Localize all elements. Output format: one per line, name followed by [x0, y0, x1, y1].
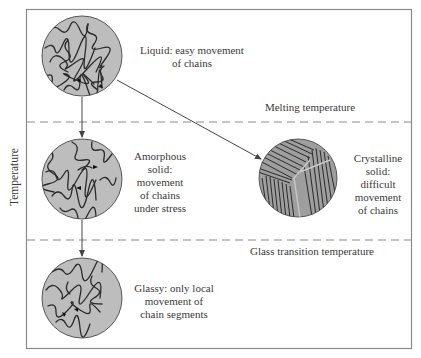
amorphous-description: Amorphous solid: movement of chains unde…	[130, 150, 190, 215]
glass-transition-label: Glass transition temperature	[226, 245, 398, 258]
amorphous-chain-circle	[41, 139, 122, 223]
amorphous-line-4: of chains	[130, 189, 190, 202]
liquid-description: Liquid: easy movement of chains	[136, 44, 248, 70]
crystalline-lamellae-circle	[258, 136, 337, 218]
melting-temperature-label: Melting temperature	[240, 101, 380, 114]
amorphous-line-5: under stress	[130, 202, 190, 215]
glassy-line-1: Glassy: only local	[130, 282, 218, 295]
glassy-description: Glassy: only local movement of chain seg…	[130, 282, 218, 321]
arrow-liquid-to-crystalline	[117, 80, 261, 159]
polymer-states-diagram: Temperature Liquid: easy movement of cha…	[0, 0, 421, 358]
crystalline-line-1: Crystalline	[348, 152, 408, 165]
amorphous-line-2: solid:	[130, 163, 190, 176]
crystalline-line-5: of chains	[348, 204, 408, 217]
crystalline-line-2: solid:	[348, 165, 408, 178]
y-axis-label: Temperature	[8, 139, 20, 215]
glassy-line-2: movement of	[130, 295, 218, 308]
crystalline-description: Crystalline solid: difficult movement of…	[348, 152, 408, 217]
amorphous-line-1: Amorphous	[130, 150, 190, 163]
glassy-chain-circle	[42, 258, 122, 338]
crystalline-line-4: movement	[348, 191, 408, 204]
amorphous-line-3: movement	[130, 176, 190, 189]
liquid-line-2: of chains	[136, 57, 248, 70]
crystalline-line-3: difficult	[348, 178, 408, 191]
glassy-line-3: chain segments	[130, 308, 218, 321]
liquid-line-1: Liquid: easy movement	[136, 44, 248, 57]
liquid-chain-circle	[42, 16, 122, 101]
